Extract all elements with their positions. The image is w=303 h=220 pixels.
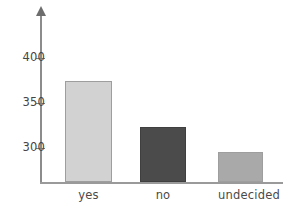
y-tick-group-300: 300 (0, 148, 45, 149)
bar-chart: 400 350 300 yes no undecided (0, 0, 303, 220)
x-axis-label-no: no (140, 190, 186, 202)
bar-no (140, 127, 186, 182)
bar-yes (65, 81, 112, 183)
y-tick-label: 350 (11, 97, 45, 109)
x-axis-label-yes: yes (65, 190, 112, 202)
x-axis-label-undecided: undecided (218, 190, 263, 202)
arrow-up-icon (36, 6, 46, 16)
y-tick-label: 300 (11, 142, 45, 154)
y-tick-group-400: 400 (0, 58, 45, 59)
x-axis-line (40, 182, 283, 184)
y-tick-label: 400 (11, 52, 45, 64)
bar-undecided (218, 152, 263, 182)
y-tick-group-350: 350 (0, 103, 45, 104)
